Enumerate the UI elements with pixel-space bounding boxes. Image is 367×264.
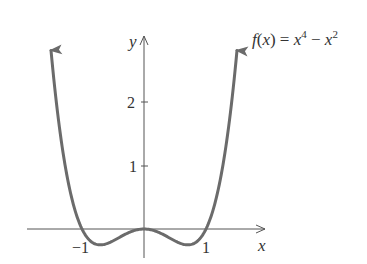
y-axis-label: y	[127, 32, 137, 51]
x-tick-label-1: 1	[202, 239, 210, 256]
x-axis-label: x	[257, 236, 266, 255]
y-tick-label-1: 1	[129, 158, 137, 175]
x-tick-label-neg1: −1	[72, 239, 89, 256]
function-graph: y x 2 1 −1 1 f(x) = x4 − x2	[0, 0, 367, 264]
func-minus: −	[307, 30, 325, 49]
func-exp2: 2	[332, 28, 338, 40]
func-paren-close: ) =	[270, 30, 294, 49]
function-label: f(x) = x4 − x2	[252, 28, 338, 49]
y-tick-label-2: 2	[127, 94, 135, 111]
